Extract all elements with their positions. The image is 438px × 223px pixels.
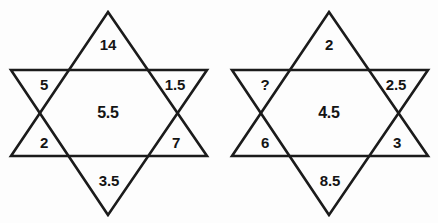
left-star-center-value: 5.5: [97, 104, 119, 122]
left-star-upper-left-point-value: 5: [40, 76, 48, 93]
right-star-upper-left-point-value: ?: [261, 76, 270, 93]
right-star-bottom-point-value: 8.5: [320, 172, 340, 189]
right-star-upper-right-point-value: 2.5: [386, 76, 406, 93]
right-star-center-value: 4.5: [318, 104, 340, 122]
left-star-upper-right-point-value: 1.5: [165, 76, 185, 93]
left-star-bottom-point-value: 3.5: [99, 172, 119, 189]
left-star-top-point-value: 14: [100, 36, 116, 53]
left-star-lower-left-point-value: 2: [40, 134, 48, 151]
right-star-lower-right-point-value: 3: [393, 134, 401, 151]
left-star-lower-right-point-value: 7: [172, 134, 180, 151]
star-puzzle-figure: 14 5 1.5 5.5 2 7 3.5 2 ? 2.5 4.5 6 3 8.5: [0, 0, 438, 223]
right-star-lower-left-point-value: 6: [261, 134, 269, 151]
right-star-figure: 2 ? 2.5 4.5 6 3 8.5: [219, 0, 438, 223]
right-star-top-point-value: 2: [325, 36, 333, 53]
left-star-figure: 14 5 1.5 5.5 2 7 3.5: [0, 0, 219, 223]
